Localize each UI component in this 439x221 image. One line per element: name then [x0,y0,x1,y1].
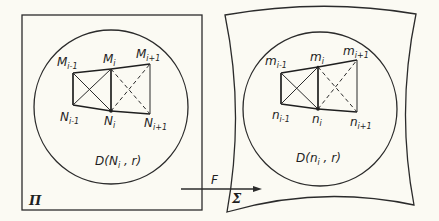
label-m-im1: mi-1 [265,54,287,70]
arrow-head-icon [253,186,262,192]
edge-M-i-M-ip1 [111,64,150,69]
plane-label-pi: Π [28,193,42,208]
label-n-im1: ni-1 [272,108,290,124]
diag-right-dashed-2 [318,60,357,109]
label-N-ip1: Ni+1 [144,116,167,132]
mapping-arrow: F [181,173,262,192]
label-m-i: mi [310,50,325,66]
edge-N-i-N-ip1 [111,111,150,114]
label-M-im1: Mi-1 [57,55,78,71]
label-M-i: Mi [103,52,116,68]
point-n-i [316,107,320,111]
diag-left-2 [73,69,111,105]
point-m-i [317,66,320,69]
diag-left-dashed-2 [111,64,150,111]
diag-left-dashed-1 [111,69,150,114]
edge-n-im1-n-i [281,104,318,109]
label-n-ip1: ni+1 [350,115,372,131]
surface-label-sigma: Σ [231,191,242,206]
disk-label-left: D(Ni , r) [95,154,141,170]
label-M-ip1: Mi+1 [136,47,160,63]
label-N-i: Ni [104,114,116,130]
left-panel: Mi-1 Mi Mi+1 Ni-1 Ni Ni+1 D(Ni , r) Π [22,15,202,210]
diag-right-1 [281,73,318,109]
edge-M-im1-M-i [73,69,111,73]
disk-label-right: D(ni , r) [296,151,341,167]
point-N-i [109,109,113,113]
diagram-canvas: Mi-1 Mi Mi+1 Ni-1 Ni Ni+1 D(Ni , r) Π mi… [0,0,439,221]
plane-pi-square [22,15,202,210]
diag-right-dashed-1 [318,67,357,112]
label-N-im1: Ni-1 [60,110,79,126]
right-panel: mi-1 mi mi+1 ni-1 ni ni+1 D(ni , r) Σ [225,6,416,212]
label-n-i: ni [312,112,323,128]
mapping-label-F: F [211,173,219,187]
edge-n-i-n-ip1 [318,109,357,112]
